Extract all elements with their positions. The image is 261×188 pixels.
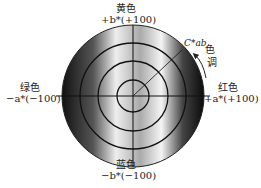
chroma-label: C*ab — [184, 38, 207, 49]
hue-label-2: 调 — [207, 57, 217, 68]
top-name: 黄色 — [116, 3, 136, 14]
bottom-axis: −b*(−100) — [101, 170, 156, 181]
left-name: 绿色 — [20, 82, 40, 93]
right-name: 红色 — [218, 82, 238, 93]
hue-label-1: 色 — [205, 44, 215, 55]
left-axis: −a*(−100) — [6, 93, 61, 104]
bottom-name: 蓝色 — [116, 159, 136, 170]
right-axis: +a*(+100) — [204, 93, 259, 104]
top-axis: +b*(+100) — [101, 14, 156, 25]
